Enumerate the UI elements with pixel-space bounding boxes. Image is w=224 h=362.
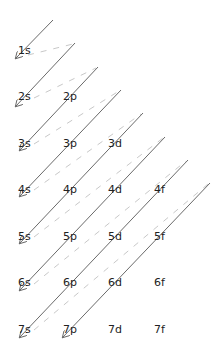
connector-5 (34, 138, 163, 237)
arrow-8 (63, 183, 210, 337)
connector-7 (34, 184, 208, 330)
orbital-2p: 2p (63, 90, 77, 103)
orbital-7f: 7f (154, 323, 165, 336)
arrow-3 (20, 67, 98, 150)
arrow-5 (20, 113, 143, 243)
orbital-7s: 7s (18, 323, 31, 336)
orbital-7d: 7d (108, 323, 122, 336)
orbital-6s: 6s (18, 276, 31, 289)
orbital-5f: 5f (154, 230, 165, 243)
orbital-5p: 5p (63, 230, 77, 243)
orbital-5d: 5d (108, 230, 122, 243)
connector-1 (28, 44, 73, 55)
orbital-2s: 2s (18, 90, 31, 103)
orbital-7p: 7p (63, 323, 77, 336)
orbital-4d: 4d (108, 183, 122, 196)
orbital-4s: 4s (18, 183, 31, 196)
orbital-1s: 1s (18, 44, 31, 57)
orbital-6p: 6p (63, 276, 77, 289)
orbital-6d: 6d (108, 276, 122, 289)
orbital-6f: 6f (154, 276, 165, 289)
filling-arrows (16, 20, 210, 337)
orbital-4f: 4f (154, 183, 165, 196)
orbital-3p: 3p (63, 137, 77, 150)
connector-6 (34, 161, 186, 284)
orbital-5s: 5s (18, 230, 31, 243)
orbital-3s: 3s (18, 137, 31, 150)
arrow-6 (20, 137, 165, 290)
orbital-4p: 4p (63, 183, 77, 196)
orbital-3d: 3d (108, 137, 122, 150)
aufbau-diagram (0, 0, 224, 362)
